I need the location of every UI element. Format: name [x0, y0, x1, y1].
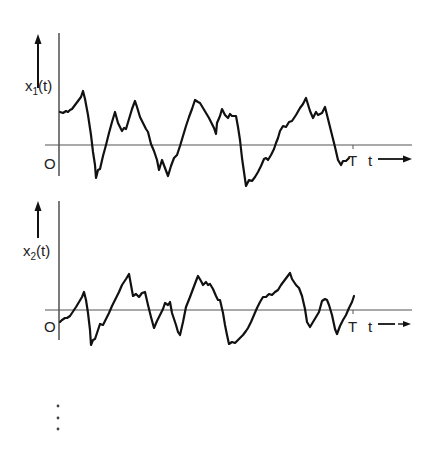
y-label-2: x2(t) — [23, 242, 50, 262]
origin-label-1: O — [44, 155, 56, 172]
end-label-1: T — [348, 152, 357, 169]
dashed-right-arrow-icon — [378, 321, 411, 327]
plot-x1: x1(t) O T t — [25, 33, 412, 186]
y-label-1: x1(t) — [25, 77, 52, 97]
plot-x2: x2(t) O T t — [23, 201, 412, 345]
right-arrow-icon — [378, 156, 412, 163]
waveform-x2 — [60, 273, 354, 345]
waveform-x1 — [60, 91, 349, 186]
up-arrow-icon — [35, 201, 42, 238]
figure-canvas: x1(t) O T t x2(t) O T t — [0, 0, 431, 449]
origin-label-2: O — [44, 318, 56, 335]
x-label-2: t — [368, 318, 373, 335]
end-label-2: T — [348, 318, 357, 335]
x-label-1: t — [368, 152, 373, 169]
continuation-ellipsis — [57, 405, 60, 431]
